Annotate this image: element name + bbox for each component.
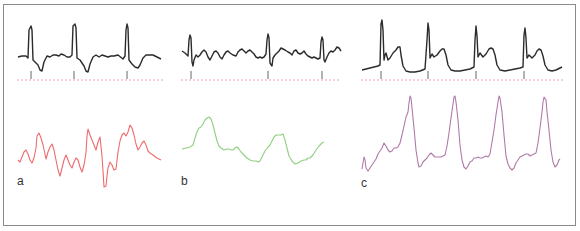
panel-b [181,34,341,164]
beat-markers-b [191,71,322,79]
beat-markers-a [31,71,127,79]
ecg-trace-b [182,34,341,66]
ecg-trace-a [18,24,161,72]
signal-trace-a [18,125,161,187]
panel-label-b: b [181,175,188,187]
ecg-trace-c [362,20,562,72]
signal-trace-b [182,117,324,164]
signal-trace-c [362,96,560,171]
panel-label-a: a [17,175,24,187]
panel-c [361,20,563,171]
panel-label-c: c [361,177,367,189]
ecg-figure [0,0,580,231]
beat-markers-c [381,71,524,79]
panel-a [17,24,163,187]
